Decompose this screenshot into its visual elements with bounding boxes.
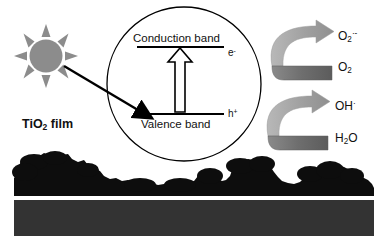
sun-icon <box>14 24 78 88</box>
hole-label: h+ <box>228 109 238 119</box>
oxygen-sub: 2 <box>347 66 352 75</box>
film-label-suffix: film <box>47 117 73 131</box>
hole-charge: + <box>234 108 238 115</box>
excitation-arrow <box>64 66 138 110</box>
species-label-superoxide: O2·- <box>338 30 357 44</box>
substrate-layer <box>14 200 374 236</box>
electron-charge: - <box>234 47 236 54</box>
water-suffix: O <box>348 131 357 145</box>
band-transition-arrow <box>168 48 192 112</box>
hydroxyl-symbol: OH <box>335 99 353 113</box>
superoxide-sup: ·- <box>352 29 357 38</box>
film-label-text: TiO <box>22 117 43 131</box>
hydroxyl-sup: · <box>353 99 356 108</box>
oxygen-symbol: O <box>338 60 347 74</box>
species-label-oxygen: O2 <box>338 61 352 75</box>
water-oxidation-arrow <box>267 90 330 150</box>
photocatalysis-diagram: Conduction band Valence band e- h+ TiO2 … <box>0 0 385 246</box>
electron-label: e- <box>228 48 236 58</box>
species-label-water: H2O <box>335 132 358 146</box>
superoxide-symbol: O <box>338 29 347 43</box>
oxygen-reduction-arrow <box>271 20 334 80</box>
valence-band-label: Valence band <box>141 119 210 131</box>
conduction-band-label: Conduction band <box>133 33 220 45</box>
water-symbol: H <box>335 131 344 145</box>
species-label-hydroxyl: OH· <box>335 100 356 112</box>
tio2-film-label: TiO2 film <box>22 118 73 131</box>
